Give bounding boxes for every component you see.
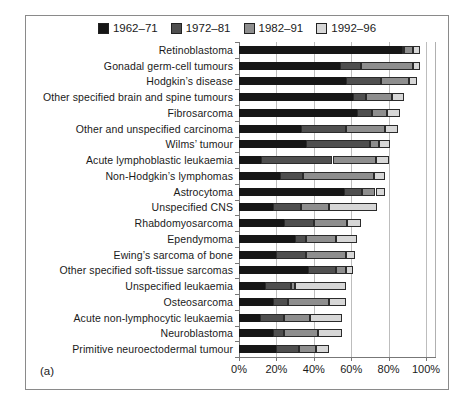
bar-segment-1992-96 xyxy=(409,77,416,85)
bar-row: Retinoblastoma xyxy=(26,42,448,58)
bar-segment-1962-71 xyxy=(239,298,273,306)
bar-segment-1962-71 xyxy=(239,46,402,54)
bar-segment-1992-96 xyxy=(329,298,346,306)
bar-segment-1992-96 xyxy=(336,235,357,243)
panel-label: (a) xyxy=(40,365,54,377)
bar-segment-1992-96 xyxy=(387,109,400,117)
bar-segment-1982-91 xyxy=(301,203,329,211)
bar-segment-1972-81 xyxy=(273,298,288,306)
category-label: Gonadal germ-cell tumours xyxy=(26,60,239,72)
category-label: Hodgkin’s disease xyxy=(26,75,239,87)
bar-row: Unspecified CNS xyxy=(26,200,448,216)
legend-label: 1962–71 xyxy=(113,22,158,34)
bar-row: Unspecified leukaemia xyxy=(26,278,448,294)
bar-segment-1992-96 xyxy=(374,172,385,180)
bar-track xyxy=(239,168,448,184)
bar-row: Ewing’s sarcoma of bone xyxy=(26,247,448,263)
bar-segment-1962-71 xyxy=(239,109,357,117)
bar-segment-1972-81 xyxy=(280,172,302,180)
bar-row: Osteosarcoma xyxy=(26,294,448,310)
bar-segment-1972-81 xyxy=(261,156,332,164)
category-label: Primitive neuroectodermal tumour xyxy=(26,343,239,355)
legend-swatch-icon xyxy=(98,23,109,34)
bar-segment-1982-91 xyxy=(346,125,385,133)
legend-swatch-icon xyxy=(316,23,327,34)
bar-track xyxy=(239,58,448,74)
bar-row: Non-Hodgkin’s lymphomas xyxy=(26,168,448,184)
bar-track xyxy=(239,310,448,326)
bar-row: Ependymoma xyxy=(26,231,448,247)
bar-track xyxy=(239,294,448,310)
page: 1962–711972–811982–911992–96 Retinoblast… xyxy=(0,0,469,401)
bar-segment-1982-91 xyxy=(284,314,310,322)
bar-row: Wilms’ tumour xyxy=(26,137,448,153)
legend-item: 1972–81 xyxy=(171,22,231,34)
category-label: Non-Hodgkin’s lymphomas xyxy=(26,170,239,182)
x-axis-tick-label: 20% xyxy=(256,363,296,375)
bar-segment-1962-71 xyxy=(239,345,276,353)
bar-segment-1992-96 xyxy=(385,125,398,133)
x-axis-tick-label: 80% xyxy=(369,363,409,375)
bar-segment-1992-96 xyxy=(379,140,390,148)
bar-row: Astrocytoma xyxy=(26,184,448,200)
bar-row: Other and unspecified carcinoma xyxy=(26,121,448,137)
bar-segment-1962-71 xyxy=(239,251,276,259)
bar-track xyxy=(239,263,448,279)
bar-track xyxy=(239,121,448,137)
bar-segment-1972-81 xyxy=(306,140,370,148)
bar-track xyxy=(239,42,448,58)
legend-label: 1982–91 xyxy=(259,22,304,34)
bar-segment-1982-91 xyxy=(299,345,316,353)
x-axis-tick-label: 0% xyxy=(219,363,259,375)
bar-row: Fibrosarcoma xyxy=(26,105,448,121)
bar-segment-1972-81 xyxy=(265,282,291,290)
bar-segment-1962-71 xyxy=(239,125,301,133)
category-label: Unspecified leukaemia xyxy=(26,280,239,292)
bar-segment-1992-96 xyxy=(318,329,342,337)
bar-segment-1962-71 xyxy=(239,188,344,196)
category-label: Retinoblastoma xyxy=(26,44,239,56)
bar-segment-1962-71 xyxy=(239,314,260,322)
x-axis-tick-label: 60% xyxy=(331,363,371,375)
bar-track xyxy=(239,74,448,90)
category-label: Osteosarcoma xyxy=(26,296,239,308)
bar-segment-1982-91 xyxy=(306,235,336,243)
bar-segment-1982-91 xyxy=(288,298,329,306)
category-label: Neuroblastoma xyxy=(26,327,239,339)
bar-segment-1992-96 xyxy=(329,203,378,211)
x-axis-tick-label: 40% xyxy=(294,363,334,375)
category-label: Fibrosarcoma xyxy=(26,107,239,119)
bar-segment-1982-91 xyxy=(333,156,376,164)
bar-track xyxy=(239,184,448,200)
bar-track xyxy=(239,326,448,342)
bar-segment-1992-96 xyxy=(346,251,355,259)
bar-segment-1992-96 xyxy=(376,156,389,164)
bar-segment-1992-96 xyxy=(310,314,342,322)
bar-segment-1962-71 xyxy=(239,77,346,85)
bar-segment-1972-81 xyxy=(301,125,346,133)
bar-segment-1972-81 xyxy=(260,314,284,322)
bar-segment-1962-71 xyxy=(239,235,295,243)
category-label: Astrocytoma xyxy=(26,186,239,198)
legend: 1962–711972–811982–911992–96 xyxy=(26,22,448,34)
x-axis-tick xyxy=(351,357,352,361)
category-label: Other specified soft-tissue sarcomas xyxy=(26,264,239,276)
bar-track xyxy=(239,105,448,121)
bar-segment-1972-81 xyxy=(284,219,314,227)
x-axis-tick xyxy=(426,357,427,361)
bar-segment-1962-71 xyxy=(239,203,273,211)
bar-row: Rhabdomyosarcoma xyxy=(26,215,448,231)
category-label: Ependymoma xyxy=(26,233,239,245)
bar-segment-1992-96 xyxy=(376,188,385,196)
bar-segment-1972-81 xyxy=(346,77,382,85)
bar-segment-1962-71 xyxy=(239,282,265,290)
bar-segment-1962-71 xyxy=(239,219,284,227)
bar-segment-1962-71 xyxy=(239,156,261,164)
bar-segment-1992-96 xyxy=(346,266,353,274)
category-label: Ewing’s sarcoma of bone xyxy=(26,249,239,261)
bar-segment-1972-81 xyxy=(295,235,306,243)
bar-segment-1992-96 xyxy=(347,219,360,227)
bar-segment-1982-91 xyxy=(303,172,374,180)
bar-track xyxy=(239,215,448,231)
bar-segment-1972-81 xyxy=(353,93,366,101)
